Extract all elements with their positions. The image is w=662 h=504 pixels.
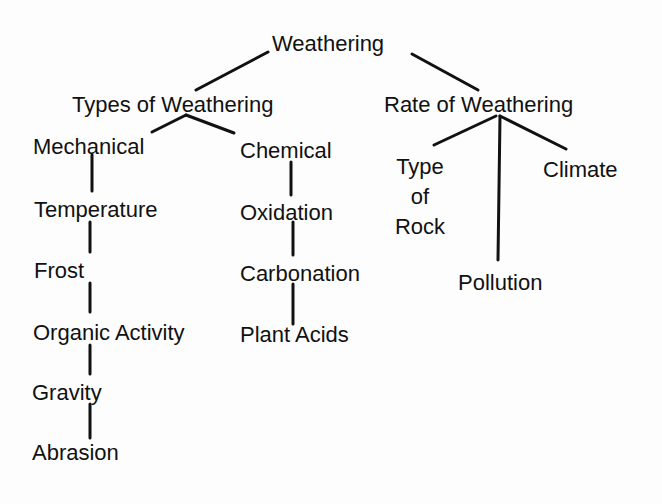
connector-lines	[0, 0, 662, 504]
node-frost: Frost	[34, 259, 84, 283]
node-mechanical: Mechanical	[33, 135, 144, 159]
node-rate-of-weathering: Rate of Weathering	[384, 93, 573, 117]
node-climate: Climate	[543, 158, 618, 182]
type-of-rock-line2: of	[388, 185, 452, 209]
node-abrasion: Abrasion	[32, 441, 119, 465]
type-of-rock-line1: Type	[388, 155, 452, 179]
node-plant-acids: Plant Acids	[240, 323, 349, 347]
type-of-rock-line3: Rock	[388, 215, 452, 239]
node-temperature: Temperature	[34, 198, 158, 222]
node-weathering: Weathering	[272, 32, 384, 56]
node-oxidation: Oxidation	[240, 201, 333, 225]
node-gravity: Gravity	[32, 381, 102, 405]
node-organic-activity: Organic Activity	[33, 321, 185, 345]
node-chemical: Chemical	[240, 139, 332, 163]
node-types-of-weathering: Types of Weathering	[72, 93, 273, 117]
node-type-of-rock: Type of Rock	[388, 155, 452, 239]
node-carbonation: Carbonation	[240, 262, 360, 286]
weathering-concept-map: Weathering Types of Weathering Rate of W…	[0, 0, 662, 504]
node-pollution: Pollution	[458, 271, 542, 295]
